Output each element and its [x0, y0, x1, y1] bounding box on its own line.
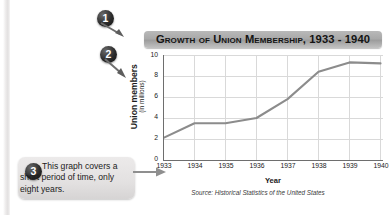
- y-axis-line: [163, 55, 164, 161]
- x-axis-ticks: 1933 1934 1935 1936 1937 1938 1939 1940: [163, 163, 383, 175]
- plot-svg: [163, 55, 383, 161]
- x-tick-1936: 1936: [249, 163, 264, 170]
- callout-3-arrow-icon: [133, 166, 169, 178]
- vertical-gridlines: [195, 55, 381, 160]
- callout-3-text: This graph covers a short period of time…: [20, 161, 130, 195]
- y-tick-4: 4: [142, 114, 158, 121]
- x-axis-label: Year: [163, 176, 383, 185]
- page-edge-strip: [3, 0, 10, 215]
- x-tick-1939: 1939: [342, 163, 357, 170]
- data-line-union-membership: [164, 62, 381, 137]
- y-tick-6: 6: [142, 93, 158, 100]
- line-chart: Union members (in millions) 10 8 6 4 2 0: [126, 55, 386, 205]
- x-tick-1935: 1935: [218, 163, 233, 170]
- y-tick-2: 2: [142, 135, 158, 142]
- x-axis-line: [163, 160, 383, 161]
- x-tick-1934: 1934: [187, 163, 202, 170]
- chart-title-bar: Growth of Union Membership, 1933 - 1940: [144, 31, 382, 48]
- x-tick-1940: 1940: [373, 163, 388, 170]
- page-title: Growth of Union Membership, 1933 - 1940: [156, 34, 370, 45]
- plot-area: [163, 55, 383, 161]
- callout-1-arrow-icon: [100, 22, 130, 38]
- x-tick-1937: 1937: [280, 163, 295, 170]
- x-tick-1938: 1938: [311, 163, 326, 170]
- y-tick-10: 10: [142, 52, 158, 59]
- y-tick-8: 8: [142, 72, 158, 79]
- y-axis-ticks: 10 8 6 4 2 0: [138, 55, 158, 161]
- chart-source-note: Source: Historical Statistics of the Uni…: [132, 189, 384, 196]
